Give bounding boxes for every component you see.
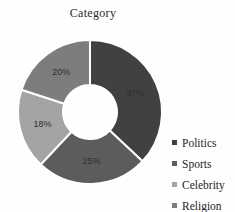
legend-item-religion: Religion (172, 195, 225, 212)
legend-marker-icon (172, 140, 177, 145)
slice-label-politics: 37% (126, 88, 144, 98)
slice-label-sports: 25% (82, 156, 100, 166)
legend-item-politics: Politics (172, 132, 225, 153)
chart-canvas: Category 37%25%18%20% PoliticsSportsCele… (0, 0, 235, 212)
legend: PoliticsSportsCelebrityReligion (172, 132, 225, 212)
legend-label: Politics (182, 137, 217, 149)
slice-label-religion: 20% (52, 67, 70, 77)
legend-marker-icon (172, 203, 177, 208)
legend-label: Religion (182, 200, 222, 212)
legend-label: Sports (182, 158, 211, 170)
legend-item-sports: Sports (172, 153, 225, 174)
slice-label-celebrity: 18% (33, 119, 51, 129)
legend-label: Celebrity (182, 179, 225, 191)
legend-item-celebrity: Celebrity (172, 174, 225, 195)
legend-marker-icon (172, 182, 177, 187)
legend-marker-icon (172, 161, 177, 166)
